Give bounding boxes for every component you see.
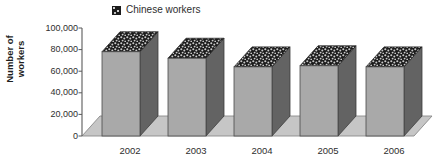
bar-column (300, 46, 356, 136)
plot-area (0, 0, 445, 166)
x-axis-tick-label: 2002 (103, 145, 157, 156)
bar-column (168, 38, 224, 136)
bar-column (102, 32, 158, 136)
x-axis-tick-label: 2005 (301, 145, 355, 156)
bar-column (234, 47, 290, 136)
bar-column (366, 47, 422, 136)
x-axis-tick-label: 2006 (367, 145, 421, 156)
x-axis-tick-label: 2003 (169, 145, 223, 156)
bar-chart: Chinese workers Number of workers 020,00… (0, 0, 445, 166)
x-axis-tick-label: 2004 (235, 145, 289, 156)
bar-group (102, 32, 422, 136)
y-axis-line (79, 28, 83, 136)
x-axis-tick-labels: 20022003200420052006 (0, 145, 445, 159)
